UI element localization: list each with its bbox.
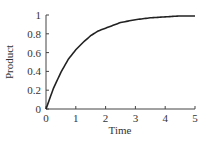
y-axis-label: Product bbox=[3, 45, 15, 79]
x-tick-label: 0 bbox=[43, 112, 49, 124]
x-tick-label: 1 bbox=[73, 112, 79, 124]
x-axis: 012345 bbox=[43, 106, 198, 124]
y-axis: 00.20.40.60.81 bbox=[27, 9, 49, 115]
x-tick-label: 3 bbox=[133, 112, 139, 124]
product-vs-time-chart: 00.20.40.60.81 012345 Time Product bbox=[0, 0, 208, 142]
x-tick-label: 2 bbox=[103, 112, 109, 124]
x-axis-label: Time bbox=[109, 124, 132, 136]
y-tick-label: 0.4 bbox=[27, 65, 41, 77]
x-tick-label: 5 bbox=[192, 112, 198, 124]
y-tick-label: 0.6 bbox=[27, 47, 41, 59]
product-curve bbox=[46, 16, 195, 109]
y-tick-label: 0 bbox=[36, 103, 42, 115]
x-tick-label: 4 bbox=[162, 112, 168, 124]
y-tick-label: 0.8 bbox=[27, 28, 41, 40]
y-tick-label: 0.2 bbox=[27, 84, 41, 96]
y-tick-label: 1 bbox=[36, 9, 42, 21]
